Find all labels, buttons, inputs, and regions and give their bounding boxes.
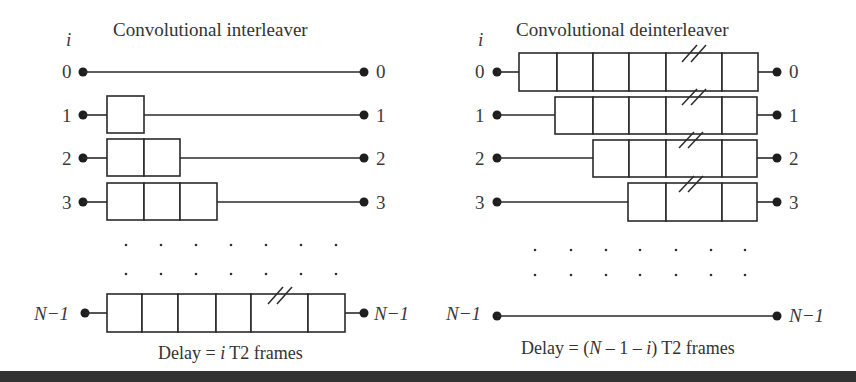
index-symbol: i xyxy=(478,29,483,50)
input-label: N−1 xyxy=(33,303,69,324)
delay-cell xyxy=(107,96,144,133)
output-node xyxy=(773,68,782,77)
delay-cell xyxy=(555,97,593,134)
ellipsis-rows xyxy=(125,244,338,276)
delay-cell xyxy=(593,97,629,134)
delay-cell xyxy=(107,294,142,332)
caption-suffix: ) T2 frames xyxy=(651,338,735,359)
output-node xyxy=(773,198,782,207)
output-node xyxy=(773,111,782,120)
output-label: N−1 xyxy=(373,303,409,324)
interleaver-row-n-minus-1: N−1 N−1 xyxy=(33,287,409,332)
input-label: N−1 xyxy=(445,303,481,324)
delay-cell xyxy=(144,139,180,176)
output-node xyxy=(360,111,369,120)
delay-cell xyxy=(180,183,217,220)
delay-cell-broken xyxy=(666,140,722,177)
delay-cell xyxy=(107,183,144,220)
delay-cell xyxy=(557,53,593,91)
delay-cell-broken xyxy=(666,183,722,221)
delay-cell xyxy=(593,140,629,177)
deinterleaver-caption: Delay = (N – 1 – i) T2 frames xyxy=(521,338,735,359)
interleaver-panel: Convolutional interleaver i 0 0 1 1 2 xyxy=(33,19,409,363)
delay-cell xyxy=(216,294,251,332)
input-label: 1 xyxy=(62,105,72,126)
input-label: 0 xyxy=(62,61,72,82)
delay-cell xyxy=(629,53,666,91)
output-label: 3 xyxy=(376,192,386,213)
output-label: 3 xyxy=(789,192,799,213)
interleaver-title: Convolutional interleaver xyxy=(113,19,308,40)
output-node xyxy=(360,309,369,318)
interleaver-caption: Delay = i T2 frames xyxy=(158,343,303,363)
interleaver-row-0: 0 0 xyxy=(62,61,386,82)
output-label: 1 xyxy=(376,105,386,126)
deinterleaver-row-0: 0 0 xyxy=(475,45,799,91)
output-label: 1 xyxy=(789,105,799,126)
output-node xyxy=(360,68,369,77)
output-node xyxy=(360,154,369,163)
output-label: 0 xyxy=(376,61,386,82)
delay-cell-broken xyxy=(251,294,308,332)
delay-cell xyxy=(593,53,629,91)
caption-var-n: N xyxy=(588,338,602,358)
output-label: 2 xyxy=(789,148,799,169)
input-label: 1 xyxy=(475,105,485,126)
delay-cell xyxy=(142,294,178,332)
delay-cell xyxy=(519,53,557,91)
input-label: 3 xyxy=(62,192,72,213)
deinterleaver-row-3: 3 3 xyxy=(475,176,799,221)
deinterleaver-row-n-minus-1: N−1 N−1 xyxy=(445,303,824,326)
input-label-text: N−1 xyxy=(445,303,481,324)
interleaver-row-1: 1 1 xyxy=(62,96,386,133)
output-label: 2 xyxy=(376,148,386,169)
delay-cell xyxy=(629,140,666,177)
interleaver-row-2: 2 2 xyxy=(62,139,386,176)
input-label-text: N−1 xyxy=(33,303,69,324)
interleaver-row-3: 3 3 xyxy=(62,183,386,220)
output-label: N−1 xyxy=(788,305,824,326)
delay-cell xyxy=(308,294,345,332)
input-label: 2 xyxy=(62,148,72,169)
caption-prefix: Delay = ( xyxy=(521,338,589,359)
caption-suffix: T2 frames xyxy=(225,343,303,363)
delay-cell xyxy=(722,183,757,221)
delay-cell xyxy=(628,183,666,221)
delay-cell xyxy=(178,294,216,332)
deinterleaver-panel: Convolutional deinterleaver i 0 0 1 xyxy=(445,19,824,359)
input-label: 0 xyxy=(475,61,485,82)
delay-cell xyxy=(107,139,144,176)
bottom-border-bar xyxy=(0,371,856,382)
delay-cell xyxy=(722,140,757,177)
ellipsis-rows xyxy=(534,249,747,277)
deinterleaver-title: Convolutional deinterleaver xyxy=(516,19,729,40)
caption-mid: – 1 – xyxy=(601,338,646,358)
deinterleaver-row-1: 1 1 xyxy=(475,89,799,134)
input-label: 3 xyxy=(475,192,485,213)
deinterleaver-row-2: 2 2 xyxy=(475,132,799,177)
delay-cell xyxy=(629,97,666,134)
output-label-text: N−1 xyxy=(373,303,409,324)
delay-cell xyxy=(144,183,180,220)
delay-cell xyxy=(722,97,757,134)
output-label: 0 xyxy=(789,61,799,82)
index-symbol: i xyxy=(66,29,71,50)
interleaver-diagram: Convolutional interleaver i 0 0 1 1 2 xyxy=(0,0,856,382)
caption-prefix: Delay = xyxy=(158,343,220,363)
output-node xyxy=(360,198,369,207)
output-label-text: N−1 xyxy=(788,305,824,326)
output-node xyxy=(773,312,782,321)
output-node xyxy=(773,154,782,163)
input-label: 2 xyxy=(475,148,485,169)
delay-cell xyxy=(722,53,758,91)
